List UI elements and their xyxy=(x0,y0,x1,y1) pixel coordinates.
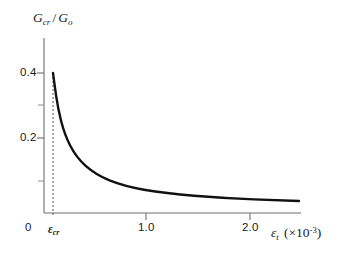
x-axis-title: εt(×10-3) xyxy=(271,226,321,242)
y-axis-ticks xyxy=(37,73,44,181)
y-axis-title: Gcr/Go xyxy=(33,11,73,27)
x-axis-open-paren: ( xyxy=(279,225,289,240)
y-axis-denominator-subscript: o xyxy=(68,17,73,27)
plot-area xyxy=(0,0,348,255)
x-tick-label-2.0: 2.0 xyxy=(242,222,259,234)
x-tick-label-1.0: 1.0 xyxy=(138,222,155,234)
chart-figure: Gcr/Go εt(×10-3) 0.4 0.2 0 1.0 2.0 εcr xyxy=(0,0,348,255)
data-curve xyxy=(53,73,299,201)
x-axis-multiplier: ×10 xyxy=(288,225,309,240)
y-tick-label-0.4: 0.4 xyxy=(20,67,37,79)
y-tick-label-0.2: 0.2 xyxy=(20,132,37,144)
x-axis-close-paren: ) xyxy=(317,225,322,240)
x-tick-label-0: 0 xyxy=(25,222,32,234)
x-axis-exponent: -3 xyxy=(310,225,317,235)
epsilon-cr-subscript: cr xyxy=(53,228,60,237)
epsilon-cr-annotation: εcr xyxy=(48,224,59,237)
y-axis-denominator-symbol: G xyxy=(58,10,68,25)
x-axis-ticks xyxy=(146,213,250,220)
y-axis-numerator-symbol: G xyxy=(33,10,43,25)
